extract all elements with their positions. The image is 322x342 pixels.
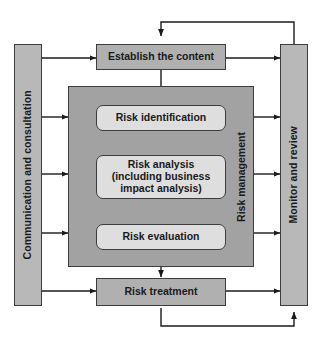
node-risk-identification-label: Risk identification (116, 112, 206, 124)
side-bar-monitor-and-review: Monitor and review (280, 44, 308, 306)
wire-feedback-loop-top (161, 22, 294, 44)
risk-management-diagram: Communication and consultation Monitor a… (0, 0, 322, 342)
side-bar-communication-and-consultation: Communication and consultation (14, 44, 42, 306)
node-risk-analysis-lines: Risk analysis (including business impact… (112, 159, 211, 194)
side-bar-left-label: Communication and consultation (22, 90, 34, 259)
node-risk-analysis-line-3: impact analysis) (112, 183, 211, 195)
node-risk-evaluation-label: Risk evaluation (122, 231, 199, 243)
node-risk-treatment-label: Risk treatment (125, 286, 198, 298)
node-establish-the-content-label: Establish the content (108, 51, 214, 63)
panel-risk-management-label-wrap: Risk management (228, 86, 254, 267)
wire-feedback-loop-bottom (161, 308, 294, 326)
node-risk-identification: Risk identification (96, 105, 226, 131)
node-risk-treatment: Risk treatment (96, 278, 226, 306)
node-establish-the-content: Establish the content (96, 44, 226, 70)
node-risk-analysis: Risk analysis (including business impact… (96, 155, 226, 199)
panel-risk-management-label: Risk management (235, 132, 247, 222)
side-bar-right-label: Monitor and review (288, 126, 300, 223)
node-risk-evaluation: Risk evaluation (96, 224, 226, 250)
